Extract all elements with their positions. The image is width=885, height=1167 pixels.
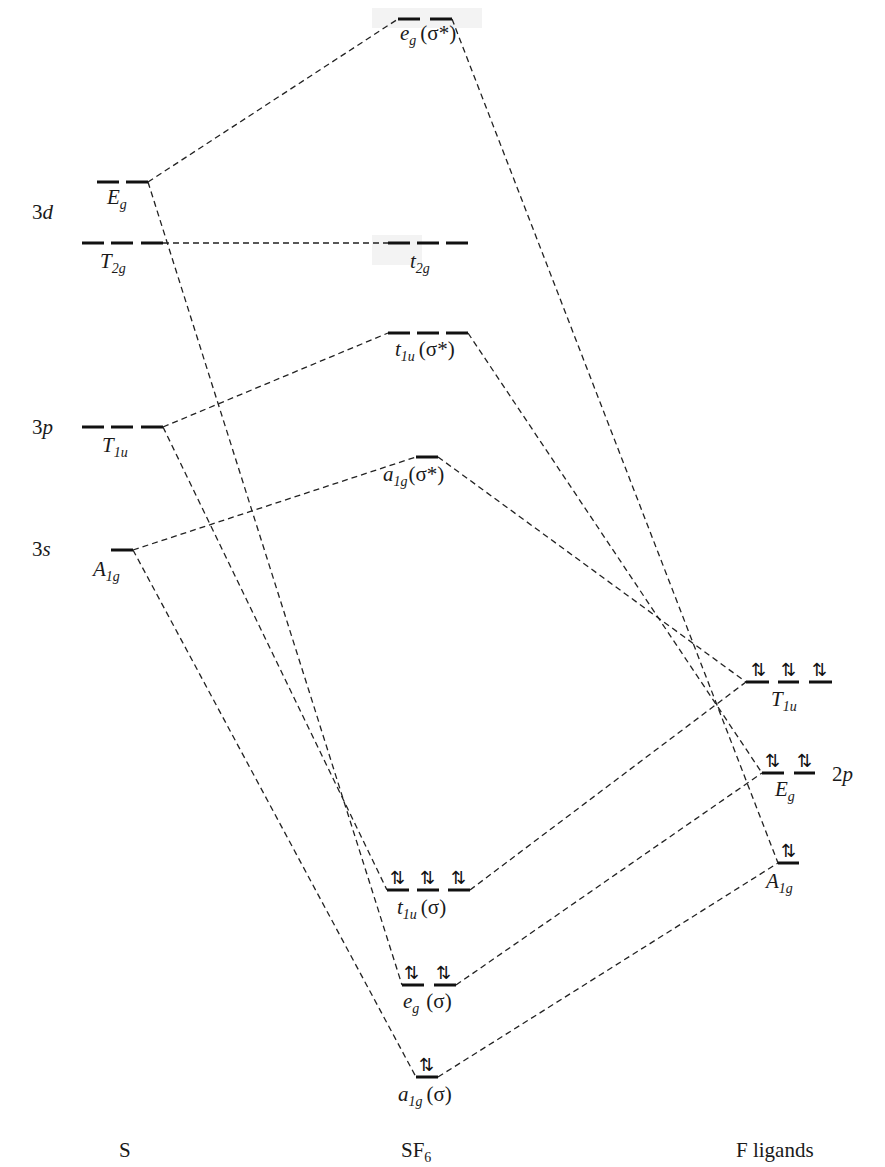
label-F-T1u: T1u	[771, 687, 797, 714]
electron-pair-icon: ⇅	[765, 750, 780, 771]
electron-pair-icon: ⇅	[797, 750, 812, 771]
electron-pair-icon: ⇅	[436, 962, 451, 983]
electron-pair-icon: ⇅	[419, 1054, 434, 1075]
label-t1u-star: t1u(σ*)	[395, 337, 455, 364]
line-t1u-to-F-T1u	[470, 682, 746, 890]
ligand-levels: ⇅ ⇅ ⇅ T1u ⇅ ⇅ Eg ⇅ A1g	[746, 659, 832, 896]
column-label-S: S	[119, 1138, 131, 1162]
line-a1g-to-F-A1g	[438, 863, 778, 1077]
electron-pair-icon: ⇅	[812, 659, 827, 680]
label-t1u: t1u(σ)	[397, 895, 446, 922]
label-S-Eg: Eg	[106, 185, 127, 212]
label-F-Eg: Eg	[774, 777, 795, 804]
label-S-T2g: T2g	[100, 249, 126, 276]
label-3d: 3d	[32, 200, 54, 224]
sulfur-levels: Eg T2g T1u A1g	[82, 182, 163, 584]
column-label-F-ligands: F ligands	[736, 1138, 814, 1162]
electron-pair-icon: ⇅	[751, 659, 766, 680]
line-a1g-star-to-F	[438, 457, 746, 682]
label-S-A1g: A1g	[91, 557, 120, 584]
line-S-T1u-to-t1u-star	[163, 333, 388, 427]
line-S-T1u-to-t1u	[163, 427, 387, 890]
mo-diagram: Eg T2g T1u A1g 3d 3p 3s 2p eg(σ*) t2g t1…	[0, 0, 885, 1167]
label-a1g-star: a1g(σ*)	[383, 462, 444, 489]
label-eg-star: eg(σ*)	[400, 21, 456, 48]
label-2p: 2p	[832, 762, 853, 786]
electron-pair-icon: ⇅	[404, 962, 419, 983]
line-S-Eg-to-eg-star	[148, 19, 398, 182]
column-label-SF6: SF6	[401, 1138, 431, 1165]
electron-pair-icon: ⇅	[451, 867, 466, 888]
line-t1u-star-to-F	[468, 333, 762, 773]
sf6-levels: eg(σ*) t2g t1u(σ*) a1g(σ*) ⇅ ⇅ ⇅ t1u(σ) …	[383, 19, 470, 1109]
line-S-A1g-to-a1g-star	[133, 457, 416, 550]
correlation-lines	[133, 19, 778, 1077]
electron-pair-icon: ⇅	[390, 867, 405, 888]
electron-pair-icon: ⇅	[420, 867, 435, 888]
label-S-T1u: T1u	[102, 433, 128, 460]
label-a1g: a1g(σ)	[398, 1082, 452, 1109]
line-S-A1g-to-a1g	[133, 550, 416, 1077]
electron-pair-icon: ⇅	[781, 840, 796, 861]
label-F-A1g: A1g	[764, 869, 793, 896]
line-eg-to-F-Eg	[456, 773, 762, 985]
line-S-Eg-to-eg	[148, 182, 402, 985]
label-3p: 3p	[32, 415, 53, 439]
line-eg-star-to-F	[452, 19, 778, 863]
electron-pair-icon: ⇅	[781, 659, 796, 680]
label-eg: eg(σ)	[403, 989, 452, 1016]
label-3s: 3s	[32, 537, 51, 561]
